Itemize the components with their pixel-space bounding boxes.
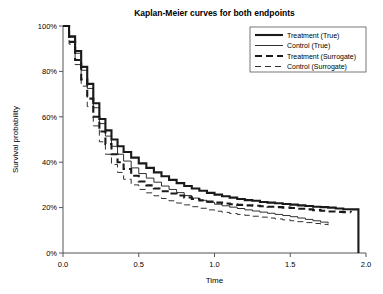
y-tick-label: 0%	[46, 249, 57, 258]
y-tick-label: 40%	[42, 158, 57, 167]
legend-label-2: Treatment (Surrogate)	[287, 53, 356, 61]
legend-label-1: Control (True)	[287, 42, 330, 50]
x-tick-label: 1.5	[285, 260, 295, 269]
y-axis-label: Survival probability	[11, 106, 20, 173]
chart-title: Kaplan-Meier curves for both endpoints	[134, 8, 295, 18]
legend-label-3: Control (Surrogate)	[287, 63, 347, 71]
x-axis-label: Time	[206, 276, 224, 285]
kaplan-meier-chart: Kaplan-Meier curves for both endpoints0%…	[0, 0, 383, 294]
y-tick-label: 80%	[42, 67, 57, 76]
x-tick-label: 2.0	[361, 260, 371, 269]
y-tick-label: 60%	[42, 113, 57, 122]
x-tick-label: 1.0	[209, 260, 219, 269]
y-tick-label: 100%	[38, 22, 58, 31]
x-tick-label: 0.5	[134, 260, 144, 269]
chart-canvas: Kaplan-Meier curves for both endpoints0%…	[0, 0, 383, 294]
legend-label-0: Treatment (True)	[287, 32, 339, 40]
y-tick-label: 20%	[42, 203, 57, 212]
x-tick-label: 0.0	[58, 260, 68, 269]
